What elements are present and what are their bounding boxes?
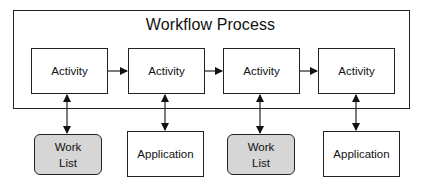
worklist-label-line2: List <box>59 155 77 171</box>
application-label: Application <box>137 146 193 162</box>
activity-label: Activity <box>243 63 279 79</box>
activity-label: Activity <box>148 63 184 79</box>
application-label: Application <box>333 146 389 162</box>
activity-label: Activity <box>338 63 374 79</box>
workflow-diagram: Workflow Process Activity Activity Activ… <box>0 0 421 187</box>
application-box-2: Application <box>323 131 400 177</box>
activity-box-4: Activity <box>318 48 395 94</box>
worklist-box-1: Work List <box>34 134 102 175</box>
activity-box-3: Activity <box>223 48 300 94</box>
worklist-label-line2: List <box>252 155 270 171</box>
worklist-box-2: Work List <box>227 134 295 175</box>
application-box-1: Application <box>127 131 204 177</box>
activity-label: Activity <box>51 63 87 79</box>
workflow-process-title: Workflow Process <box>0 16 421 34</box>
activity-box-1: Activity <box>31 48 108 94</box>
worklist-label-line1: Work <box>248 139 275 155</box>
activity-box-2: Activity <box>128 48 205 94</box>
worklist-label-line1: Work <box>55 139 82 155</box>
